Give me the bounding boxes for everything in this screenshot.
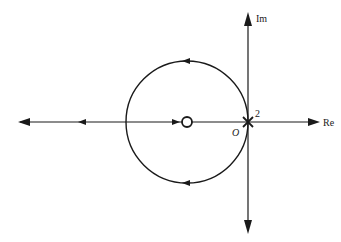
locus-arrow-lower-icon bbox=[182, 180, 190, 186]
root-locus-diagram: Im Re O 2 bbox=[0, 0, 341, 242]
locus-arrow-upper-icon bbox=[182, 58, 190, 64]
origin-label: O bbox=[232, 127, 239, 138]
pole-multiplicity-label: 2 bbox=[255, 108, 260, 119]
real-axis bbox=[20, 118, 320, 126]
locus-arrow-left-icon bbox=[18, 118, 30, 126]
imag-axis-arrow-down-icon bbox=[244, 220, 252, 234]
locus-arrow-to-zero-icon bbox=[172, 119, 180, 125]
imag-axis-arrow-up-icon bbox=[244, 12, 252, 26]
real-axis-label: Re bbox=[323, 117, 335, 128]
imag-axis-label: Im bbox=[256, 13, 267, 24]
zero-icon bbox=[182, 117, 192, 127]
real-axis-arrow-icon bbox=[308, 118, 320, 126]
locus-arrow-mid-icon bbox=[78, 119, 86, 125]
